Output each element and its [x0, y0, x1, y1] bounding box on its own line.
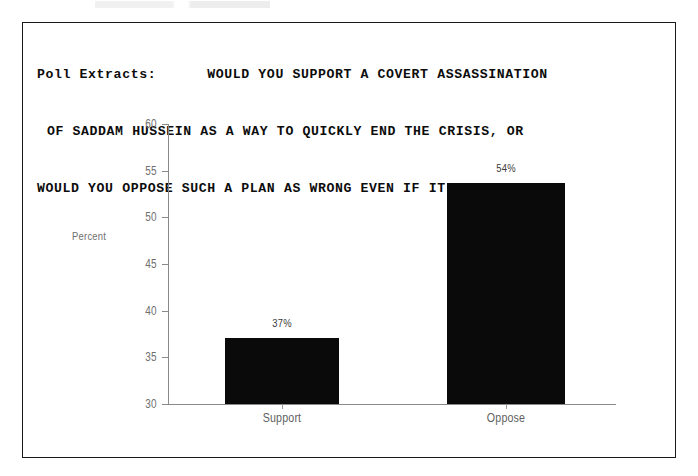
- y-tick-label-30: 30: [133, 397, 157, 411]
- y-tick-label-45-wrap: 45: [123, 257, 157, 271]
- y-tick-label-45: 45: [133, 257, 157, 271]
- y-tick-label-40: 40: [133, 304, 157, 318]
- x-axis-label-oppose: Oppose: [465, 410, 547, 425]
- y-tick-35: [162, 357, 168, 358]
- y-tick-60: [162, 124, 168, 125]
- bar-support[interactable]: [225, 338, 339, 405]
- y-tick-label-60-wrap: 60: [123, 117, 157, 131]
- y-tick-45: [162, 264, 168, 265]
- y-axis-title: Percent: [72, 230, 106, 242]
- bar-oppose[interactable]: [447, 183, 565, 404]
- y-tick-50: [162, 217, 168, 218]
- y-tick-40: [162, 311, 168, 312]
- y-tick-label-30-wrap: 30: [123, 397, 157, 411]
- chart-frame: Poll Extracts: WOULD YOU SUPPORT A COVER…: [22, 22, 676, 458]
- y-tick-30: [162, 404, 168, 405]
- x-axis-line: [168, 404, 616, 405]
- y-tick-55: [162, 171, 168, 172]
- y-tick-label-50: 50: [133, 210, 157, 224]
- y-tick-label-40-wrap: 40: [123, 304, 157, 318]
- y-axis-line: [168, 124, 169, 405]
- x-axis-label-support: Support: [241, 410, 323, 425]
- y-tick-label-35: 35: [133, 350, 157, 364]
- bar-chart-plot-area: Percent 60 55 50 45 40 35 30: [23, 23, 677, 459]
- x-tick-oppose: [506, 404, 507, 409]
- x-tick-support: [282, 404, 283, 409]
- scan-artifact-text: [95, 1, 270, 8]
- bar-value-oppose: 54%: [465, 162, 547, 174]
- y-tick-label-35-wrap: 35: [123, 350, 157, 364]
- y-tick-label-60: 60: [133, 117, 157, 131]
- y-tick-label-50-wrap: 50: [123, 210, 157, 224]
- y-tick-label-55: 55: [133, 164, 157, 178]
- bar-value-support: 37%: [241, 317, 323, 329]
- y-tick-label-55-wrap: 55: [123, 164, 157, 178]
